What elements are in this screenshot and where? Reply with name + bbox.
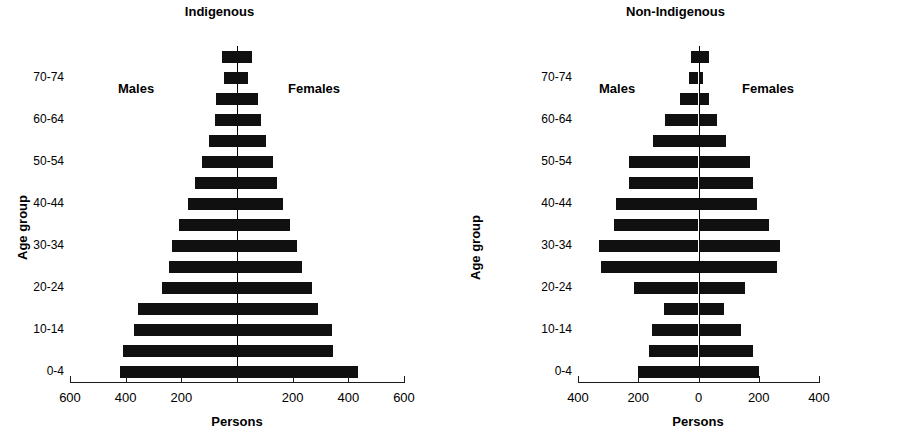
bar-male: [629, 156, 698, 168]
x-axis-title-non-indigenous: Persons: [598, 414, 798, 429]
y-tick-label: 70-74: [526, 70, 572, 84]
bar-row: [578, 324, 818, 336]
bar-male: [664, 303, 699, 315]
y-tick-label: 50-54: [18, 154, 64, 168]
bar-male: [134, 324, 237, 336]
y-tick-label: 50-54: [526, 154, 572, 168]
x-tick-label: 400: [96, 390, 156, 405]
bar-male: [120, 366, 237, 378]
y-tick-label: 70-74: [18, 70, 64, 84]
bar-female: [237, 240, 297, 252]
bar-row: [578, 114, 818, 126]
bar-male: [202, 156, 237, 168]
y-axis-title-non-indigenous: Age group: [468, 188, 483, 308]
x-tick-mark: [819, 376, 820, 383]
bar-row: [70, 324, 404, 336]
bar-female: [237, 72, 248, 84]
bar-female: [237, 156, 273, 168]
bar-row: [70, 177, 404, 189]
x-axis-title-indigenous: Persons: [137, 414, 337, 429]
x-tick-label: 600: [374, 390, 434, 405]
x-tick-mark: [404, 376, 405, 383]
x-tick-mark: [578, 376, 579, 383]
bar-row: [578, 261, 818, 273]
y-tick-label: 0-4: [526, 364, 572, 378]
population-pyramid-figure: Indigenous Males Females 600400200200400…: [0, 0, 898, 438]
chart-title-indigenous: Indigenous: [0, 4, 444, 19]
x-tick-label: 200: [151, 390, 211, 405]
y-tick-label: 0-4: [18, 364, 64, 378]
bar-female: [237, 93, 258, 105]
females-label-indigenous: Females: [288, 81, 340, 96]
bar-row: [578, 345, 818, 357]
bar-male: [689, 72, 698, 84]
bar-female: [237, 135, 266, 147]
bar-row: [70, 198, 404, 210]
y-tick-label: 20-24: [526, 280, 572, 294]
bar-female: [237, 114, 261, 126]
bar-row: [578, 219, 818, 231]
bar-male: [224, 72, 237, 84]
bar-row: [70, 261, 404, 273]
bar-row: [70, 114, 404, 126]
plot-area-non-indigenous: [578, 46, 818, 382]
bar-male: [634, 282, 699, 294]
bar-female: [699, 240, 780, 252]
x-tick-label: 0: [669, 390, 729, 405]
bar-row: [70, 240, 404, 252]
bar-male: [162, 282, 237, 294]
bar-row: [70, 219, 404, 231]
males-label-non-indigenous: Males: [599, 81, 635, 96]
bar-female: [699, 177, 753, 189]
bar-female: [237, 324, 332, 336]
bar-male: [653, 135, 698, 147]
bar-male: [691, 51, 699, 63]
bar-row: [578, 282, 818, 294]
x-tick-mark: [293, 376, 294, 383]
bar-row: [70, 282, 404, 294]
bar-female: [237, 198, 283, 210]
y-tick-label: 30-34: [526, 238, 572, 252]
bar-male: [215, 114, 237, 126]
y-tick-label: 60-64: [526, 112, 572, 126]
y-tick-label: 10-14: [526, 322, 572, 336]
x-tick-mark: [759, 376, 760, 383]
chart-title-non-indigenous: Non-Indigenous: [451, 4, 898, 19]
bar-male: [680, 93, 698, 105]
bar-male: [599, 240, 698, 252]
y-axis-title-indigenous: Age group: [15, 168, 30, 288]
bar-row: [578, 303, 818, 315]
x-tick-mark: [126, 376, 127, 383]
y-tick-label: 40-44: [526, 196, 572, 210]
bar-male: [614, 219, 698, 231]
x-tick-label: 400: [548, 390, 608, 405]
x-tick-label: 400: [318, 390, 378, 405]
bar-row: [70, 156, 404, 168]
bar-female: [237, 366, 358, 378]
bar-female: [237, 51, 252, 63]
bar-female: [699, 156, 750, 168]
bar-female: [699, 72, 704, 84]
bar-female: [699, 261, 777, 273]
bar-female: [699, 345, 753, 357]
bar-female: [699, 282, 746, 294]
y-tick-label: 10-14: [18, 322, 64, 336]
bar-male: [179, 219, 237, 231]
bar-male: [616, 198, 699, 210]
x-tick-label: 600: [40, 390, 100, 405]
bar-female: [699, 366, 759, 378]
bar-female: [699, 303, 725, 315]
bar-female: [237, 219, 290, 231]
bar-row: [578, 156, 818, 168]
plot-area-indigenous: [70, 46, 404, 382]
chart-panel-indigenous: Indigenous: [0, 0, 449, 438]
males-label-indigenous: Males: [118, 81, 154, 96]
bar-female: [699, 51, 710, 63]
bar-female: [699, 198, 758, 210]
bar-row: [578, 135, 818, 147]
bar-male: [209, 135, 237, 147]
bar-female: [237, 345, 333, 357]
bar-male: [601, 261, 699, 273]
bar-row: [578, 51, 818, 63]
bar-male: [123, 345, 237, 357]
